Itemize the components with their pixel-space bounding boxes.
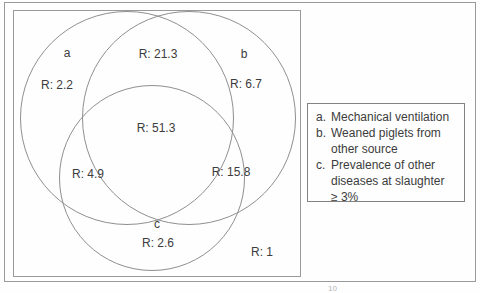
region-value-a-and-c: R: 4.9 <box>72 168 104 181</box>
legend-marker-b: b. <box>316 125 331 157</box>
region-value-c-only: R: 2.6 <box>142 237 174 250</box>
legend-item-a: a. Mechanical ventilation <box>316 109 461 125</box>
region-value-a-b-c: R: 51.3 <box>137 122 176 135</box>
legend-text-c: Prevalence of other diseases at slaughte… <box>331 157 444 205</box>
legend-marker-a: a. <box>316 109 331 125</box>
legend-marker-c: c. <box>316 157 331 205</box>
region-value-b-only: R: 6.7 <box>230 78 262 91</box>
figure-canvas: a b c R: 2.2 R: 21.3 R: 6.7 R: 51.3 R: 4… <box>0 0 480 293</box>
region-value-b-and-c: R: 15.8 <box>212 166 251 179</box>
legend-text-b: Weaned piglets from other source <box>331 125 441 157</box>
legend-box: a. Mechanical ventilation b. Weaned pigl… <box>307 103 465 202</box>
region-value-a-and-b: R: 21.3 <box>139 48 178 61</box>
circle-a-letter-label: a <box>64 47 71 60</box>
region-value-outside: R: 1 <box>251 246 273 259</box>
circle-b-letter-label: b <box>241 48 248 61</box>
legend-text-a: Mechanical ventilation <box>331 109 449 125</box>
region-value-a-only: R: 2.2 <box>41 79 73 92</box>
cutoff-footnote-fragment: 10 <box>328 284 337 293</box>
legend-item-b: b. Weaned piglets from other source <box>316 125 461 157</box>
legend-item-c: c. Prevalence of other diseases at slaug… <box>316 157 461 205</box>
circle-c-letter-label: c <box>154 218 160 231</box>
